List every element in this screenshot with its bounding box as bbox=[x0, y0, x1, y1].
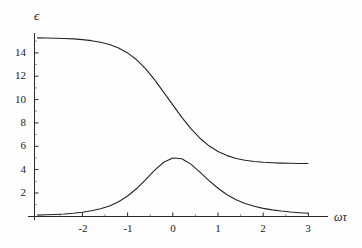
chart-figure: 14 12 10 8 6 4 2 -2 -1 0 1 2 3 ϵ ωτ bbox=[0, 0, 362, 248]
x-tick-label-minus2: -2 bbox=[70, 223, 96, 234]
x-tick-label-3: 3 bbox=[295, 223, 321, 234]
y-tick-label-8: 8 bbox=[8, 117, 26, 128]
y-tick-label-4: 4 bbox=[8, 164, 26, 175]
plot-area bbox=[0, 0, 362, 248]
x-tick-label-1: 1 bbox=[205, 223, 231, 234]
x-axis-title: ωτ bbox=[334, 210, 347, 225]
y-tick-label-2: 2 bbox=[8, 187, 26, 198]
y-tick-label-14: 14 bbox=[8, 47, 26, 58]
y-tick-label-12: 12 bbox=[8, 70, 26, 81]
plot-background bbox=[0, 0, 362, 248]
y-axis-title: ϵ bbox=[34, 8, 39, 24]
y-tick-label-10: 10 bbox=[8, 94, 26, 105]
x-tick-label-minus1: -1 bbox=[115, 223, 141, 234]
y-tick-label-6: 6 bbox=[8, 140, 26, 151]
x-tick-label-2: 2 bbox=[250, 223, 276, 234]
x-tick-label-0: 0 bbox=[160, 223, 186, 234]
